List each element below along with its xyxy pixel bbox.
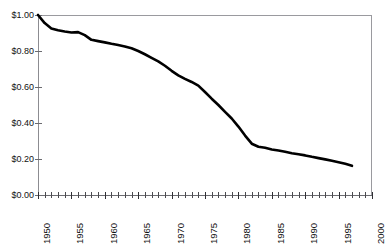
chart-title [0, 0, 387, 1]
x-tick-minor [125, 192, 126, 198]
x-tick-minor [218, 192, 219, 198]
x-tick-minor [252, 192, 253, 198]
x-tick-minor [98, 192, 99, 198]
x-axis-tick-label: 1985 [276, 223, 286, 244]
x-tick-minor [292, 192, 293, 198]
x-tick-minor [319, 192, 320, 198]
x-tick-minor [212, 192, 213, 198]
x-tick-minor [345, 192, 346, 198]
x-axis-tick-label: 1995 [343, 223, 353, 244]
x-tick-minor [45, 192, 46, 198]
x-axis-tick-label: 1955 [75, 223, 85, 244]
x-axis-tick-label: 1960 [109, 223, 119, 244]
x-tick-major [71, 192, 72, 199]
x-tick-major [172, 192, 173, 199]
x-axis-tick-label: 1950 [42, 223, 52, 244]
x-tick-minor [152, 192, 153, 198]
x-tick-minor [85, 192, 86, 198]
x-tick-minor [232, 192, 233, 198]
x-tick-minor [245, 192, 246, 198]
y-axis-tick-label: $0.20 [0, 155, 34, 164]
y-axis-tick-label: $1.00 [0, 11, 34, 20]
x-tick-minor [118, 192, 119, 198]
x-tick-minor [185, 192, 186, 198]
y-axis-tick-label: $0.60 [0, 83, 34, 92]
chart-container: $1.00$0.80$0.60$0.40$0.20$0.00 195019551… [0, 0, 387, 247]
x-tick-minor [51, 192, 52, 198]
x-tick-minor [285, 192, 286, 198]
x-tick-minor [91, 192, 92, 198]
x-tick-minor [132, 192, 133, 198]
x-tick-minor [332, 192, 333, 198]
x-tick-major [205, 192, 206, 199]
x-tick-minor [65, 192, 66, 198]
x-axis-tick-label: 1980 [242, 223, 252, 244]
line-series [38, 15, 372, 195]
x-tick-minor [78, 192, 79, 198]
x-axis-tick-label: 1965 [142, 223, 152, 244]
x-tick-minor [225, 192, 226, 198]
x-tick-minor [265, 192, 266, 198]
x-tick-major [305, 192, 306, 199]
y-axis-tick-label: $0.80 [0, 47, 34, 56]
x-tick-major [138, 192, 139, 199]
x-tick-minor [365, 192, 366, 198]
x-axis-tick-label: 1975 [209, 223, 219, 244]
x-tick-minor [352, 192, 353, 198]
x-tick-minor [58, 192, 59, 198]
x-tick-minor [158, 192, 159, 198]
x-tick-minor [145, 192, 146, 198]
x-tick-minor [258, 192, 259, 198]
x-tick-major [372, 192, 373, 199]
x-tick-minor [278, 192, 279, 198]
x-axis-ticks [38, 192, 372, 200]
series-polyline [38, 15, 352, 166]
x-tick-major [238, 192, 239, 199]
y-axis-tick-label: $0.40 [0, 119, 34, 128]
x-tick-minor [299, 192, 300, 198]
plot-area [38, 15, 372, 195]
x-tick-major [339, 192, 340, 199]
x-tick-minor [178, 192, 179, 198]
x-tick-minor [325, 192, 326, 198]
x-axis-tick-label: 2000 [376, 223, 386, 244]
x-axis-tick-label: 1970 [176, 223, 186, 244]
x-axis-tick-label: 1990 [309, 223, 319, 244]
x-tick-minor [198, 192, 199, 198]
x-tick-minor [312, 192, 313, 198]
x-tick-minor [165, 192, 166, 198]
x-tick-minor [359, 192, 360, 198]
x-tick-major [105, 192, 106, 199]
x-tick-major [272, 192, 273, 199]
x-tick-minor [192, 192, 193, 198]
y-axis-tick-label: $0.00 [0, 191, 34, 200]
x-tick-minor [111, 192, 112, 198]
x-tick-major [38, 192, 39, 199]
x-axis-labels: 1950195519601965197019751980198519901995… [0, 200, 387, 247]
